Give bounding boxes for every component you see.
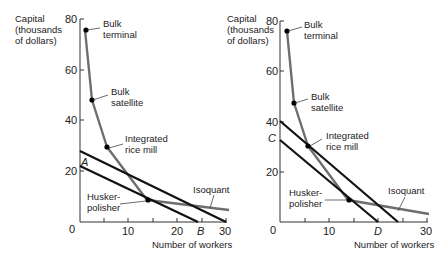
- label-husker-2: polisher: [87, 202, 120, 213]
- label-bulk-satellite-1: Bulk: [111, 86, 130, 97]
- label-integrated-2: rice mill: [326, 141, 358, 152]
- y-tick-80: 80: [65, 13, 77, 25]
- x-tick-10: 10: [323, 225, 335, 237]
- left-chart: Capital (thousands of dollars) 80 60 40 …: [15, 13, 232, 250]
- label-bulk-satellite-2: satellite: [111, 97, 143, 108]
- y-axis-label-line3: of dollars): [15, 35, 57, 46]
- y-intercept-label-C: C: [268, 132, 276, 144]
- label-isoquant: Isoquant: [193, 184, 230, 195]
- x-intercept-label-B: B: [197, 225, 204, 237]
- y-axis-label-line1: Capital: [15, 13, 45, 24]
- label-integrated-1: Integrated: [326, 130, 369, 141]
- x-axis-label: Number of workers: [152, 239, 232, 250]
- isoquant-charts: Capital (thousands of dollars) 80 60 40 …: [0, 0, 446, 264]
- isocost-line-inner: [280, 140, 378, 222]
- x-intercept-label-D: D: [374, 225, 382, 237]
- y-axis-label-line2: (thousands: [15, 24, 62, 35]
- label-husker-2: polisher: [289, 198, 322, 209]
- label-isoquant: Isoquant: [388, 185, 425, 196]
- label-integrated-1: Integrated: [125, 133, 168, 144]
- y-ticks: [280, 21, 284, 172]
- right-chart: Capital (thousands of dollars) 80 60 40 …: [227, 13, 434, 250]
- point-integrated-rice-mill: [305, 143, 310, 148]
- label-husker-1: Husker-: [87, 191, 120, 202]
- origin-label: 0: [270, 224, 276, 236]
- x-tick-20: 20: [171, 225, 183, 237]
- y-tick-60: 60: [266, 65, 278, 77]
- y-tick-40: 40: [65, 114, 77, 126]
- label-bulk-terminal-2: terminal: [304, 30, 338, 41]
- x-tick-30: 30: [420, 225, 432, 237]
- y-axis-label-line3: of dollars): [227, 35, 269, 46]
- y-tick-40: 40: [266, 116, 278, 128]
- y-tick-80: 80: [266, 15, 278, 27]
- label-bulk-terminal-1: Bulk: [304, 19, 323, 30]
- label-bulk-terminal-1: Bulk: [103, 18, 122, 29]
- y-tick-20: 20: [266, 166, 278, 178]
- x-tick-30: 30: [219, 225, 231, 237]
- point-integrated-rice-mill: [104, 144, 109, 149]
- x-ticks: [104, 218, 226, 222]
- x-axis-label: Number of workers: [354, 239, 434, 250]
- x-ticks: [305, 218, 427, 222]
- leader-lines: [288, 27, 405, 211]
- x-tick-10: 10: [122, 225, 134, 237]
- label-integrated-2: rice mill: [125, 144, 157, 155]
- label-bulk-terminal-2: terminal: [103, 29, 137, 40]
- isoquant-curve: [85, 30, 229, 210]
- point-husker-polisher: [145, 197, 150, 202]
- leader-lines: [87, 28, 214, 208]
- y-tick-20: 20: [65, 165, 77, 177]
- label-husker-1: Husker-: [289, 187, 322, 198]
- label-bulk-satellite-1: Bulk: [311, 91, 330, 102]
- label-bulk-satellite-2: satellite: [311, 102, 343, 113]
- point-husker-polisher: [346, 197, 351, 202]
- origin-label: 0: [69, 223, 75, 235]
- y-ticks: [80, 19, 84, 171]
- y-tick-60: 60: [65, 64, 77, 76]
- y-axis-label-line1: Capital: [227, 13, 257, 24]
